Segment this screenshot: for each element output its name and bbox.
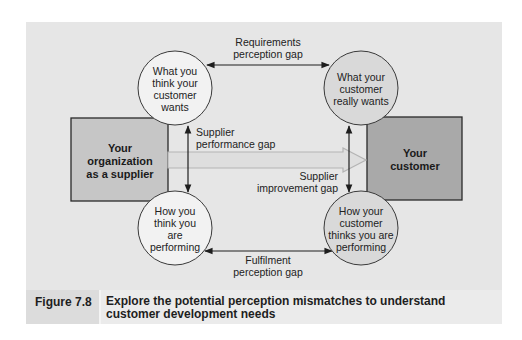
supplier-improvement-gap-label-2: improvement gap xyxy=(257,182,338,194)
svg-text:are: are xyxy=(167,229,182,241)
svg-text:customer: customer xyxy=(153,89,197,101)
supplier-improvement-gap-label-1: Supplier xyxy=(299,170,338,182)
svg-text:really wants: really wants xyxy=(333,95,388,107)
hollow-arrow-icon xyxy=(168,148,366,172)
node-what-you-think-customer-wants: What you think your customer wants xyxy=(138,51,212,125)
supplier-box-line-2: organization xyxy=(87,155,153,167)
node-how-customer-thinks-performing: How your customer thinks you are perform… xyxy=(324,191,398,265)
svg-text:What your: What your xyxy=(337,71,385,83)
svg-text:customer: customer xyxy=(339,83,383,95)
requirements-gap-label-2: perception gap xyxy=(233,48,303,60)
requirements-gap-label-1: Requirements xyxy=(235,36,300,48)
svg-text:think you: think you xyxy=(154,217,196,229)
supplier-box: Your organization as a supplier xyxy=(71,118,168,201)
svg-text:thinks you are: thinks you are xyxy=(328,229,394,241)
supplier-box-line-1: Your xyxy=(108,142,133,154)
customer-box: Your customer xyxy=(367,117,462,200)
figure-label: Figure 7.8 xyxy=(26,290,99,324)
svg-text:What you: What you xyxy=(153,65,198,77)
fulfilment-gap-label-1: Fulfilment xyxy=(245,254,291,266)
supplier-performance-gap-label-2: performance gap xyxy=(196,138,276,150)
customer-box-line-2: customer xyxy=(390,160,440,172)
figure-caption-text: Explore the potential perception mismatc… xyxy=(106,295,496,321)
svg-text:performing: performing xyxy=(150,241,200,253)
svg-text:How your: How your xyxy=(339,205,384,217)
node-what-customer-really-wants: What your customer really wants xyxy=(324,51,398,125)
supplier-box-line-3: as a supplier xyxy=(86,168,154,180)
customer-box-line-1: Your xyxy=(403,147,428,159)
supplier-performance-gap-label-1: Supplier xyxy=(196,126,235,138)
node-how-you-think-performing: How you think you are performing xyxy=(138,191,212,265)
fulfilment-gap-label-2: perception gap xyxy=(233,266,303,278)
svg-text:customer: customer xyxy=(339,217,383,229)
svg-text:wants: wants xyxy=(160,101,188,113)
svg-text:think your: think your xyxy=(152,77,198,89)
figure-caption: Figure 7.8 Explore the potential percept… xyxy=(26,290,502,324)
perception-gap-diagram: Your organization as a supplier Your cus… xyxy=(0,0,522,340)
svg-text:How you: How you xyxy=(155,205,196,217)
svg-text:performing: performing xyxy=(336,241,386,253)
caption-divider xyxy=(99,290,101,324)
